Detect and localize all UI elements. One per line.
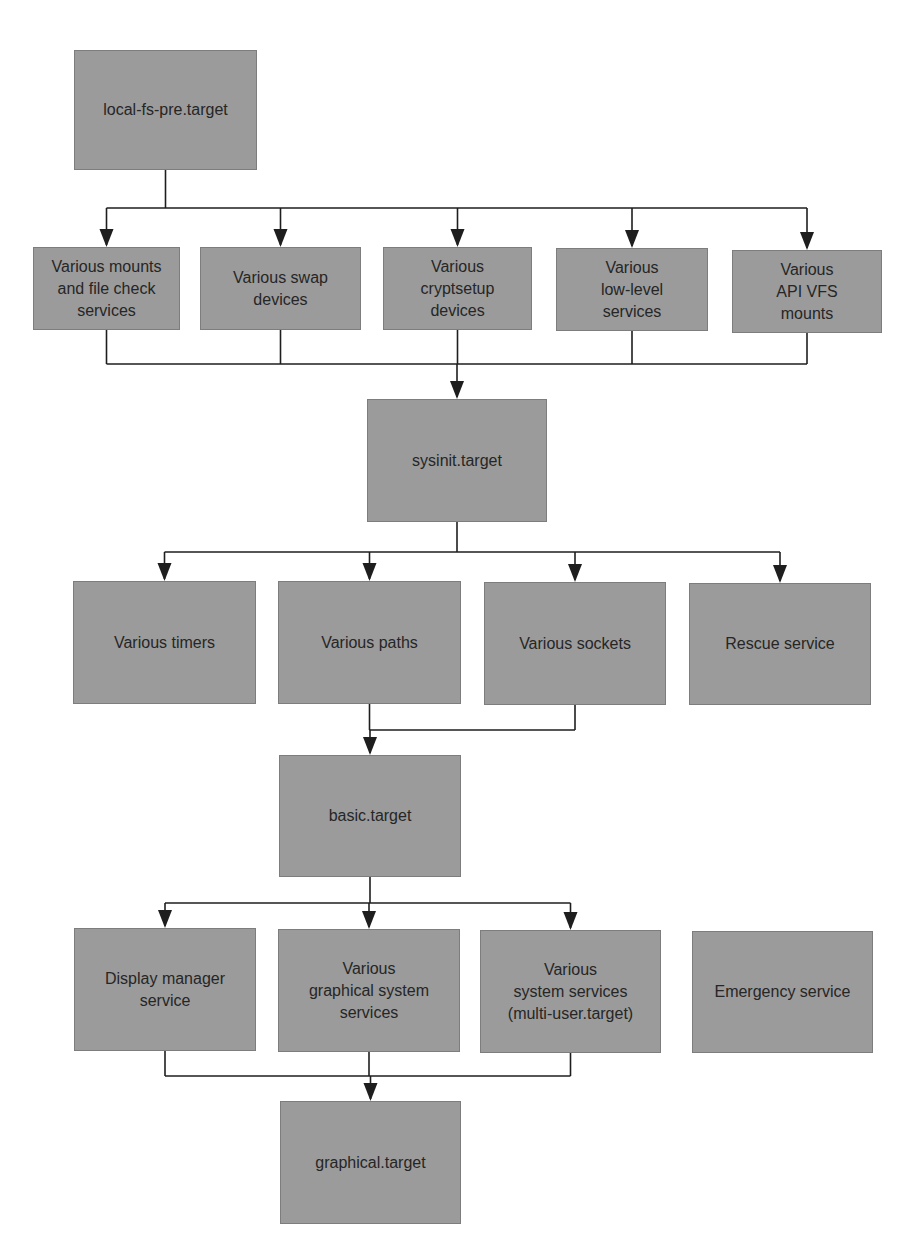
arrowhead-icon xyxy=(158,563,172,581)
arrowhead-icon xyxy=(800,232,814,250)
node-label: Various paths xyxy=(321,632,418,654)
arrowhead-icon xyxy=(451,229,465,247)
arrowhead-icon xyxy=(568,564,582,582)
arrowhead-icon xyxy=(773,565,787,583)
node-various-swap: Various swap devices xyxy=(200,247,361,330)
node-label: local-fs-pre.target xyxy=(103,99,228,121)
node-label: Rescue service xyxy=(725,633,834,655)
node-emergency-service: Emergency service xyxy=(692,931,873,1053)
arrowhead-icon xyxy=(564,912,578,930)
node-label: Various graphical system services xyxy=(309,958,429,1024)
node-label: Various API VFS mounts xyxy=(776,259,837,325)
node-label: Various system services (multi-user.targ… xyxy=(508,959,633,1025)
arrowhead-icon xyxy=(100,229,114,247)
arrowhead-icon xyxy=(362,911,376,929)
arrowhead-icon xyxy=(158,910,172,928)
node-label: Various sockets xyxy=(519,633,631,655)
node-various-mounts: Various mounts and file check services xyxy=(33,247,180,330)
arrowhead-icon xyxy=(450,381,464,399)
node-display-manager: Display manager service xyxy=(74,928,256,1051)
node-various-paths: Various paths xyxy=(278,581,461,704)
node-label: Various cryptsetup devices xyxy=(421,256,495,322)
arrowhead-icon xyxy=(274,229,288,247)
node-label: sysinit.target xyxy=(412,450,502,472)
node-multi-user-services: Various system services (multi-user.targ… xyxy=(480,930,661,1053)
node-various-sockets: Various sockets xyxy=(484,582,666,705)
node-label: Display manager service xyxy=(105,968,225,1012)
arrowhead-icon xyxy=(363,737,377,755)
arrowhead-icon xyxy=(363,563,377,581)
node-label: Various timers xyxy=(114,632,215,654)
diagram-canvas: local-fs-pre.target Various mounts and f… xyxy=(0,0,921,1259)
node-sysinit-target: sysinit.target xyxy=(367,399,547,522)
node-basic-target: basic.target xyxy=(279,755,461,877)
node-label: Various low-level services xyxy=(601,257,663,323)
node-graphical-system-services: Various graphical system services xyxy=(278,929,460,1052)
node-various-cryptsetup: Various cryptsetup devices xyxy=(383,247,532,330)
node-label: Various mounts and file check services xyxy=(52,256,162,322)
node-rescue-service: Rescue service xyxy=(689,583,871,705)
node-label: basic.target xyxy=(329,805,412,827)
arrowhead-icon xyxy=(625,230,639,248)
node-graphical-target: graphical.target xyxy=(280,1101,461,1224)
node-label: graphical.target xyxy=(315,1152,425,1174)
node-various-timers: Various timers xyxy=(73,581,256,704)
node-label: Emergency service xyxy=(714,981,850,1003)
node-label: Various swap devices xyxy=(233,267,328,311)
arrowhead-icon xyxy=(364,1083,378,1101)
node-local-fs-pre-target: local-fs-pre.target xyxy=(74,50,257,170)
node-various-low-level: Various low-level services xyxy=(556,248,708,331)
node-various-api-vfs: Various API VFS mounts xyxy=(732,250,882,333)
